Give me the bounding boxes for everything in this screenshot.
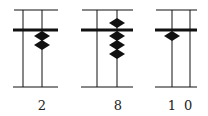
value-label: 1 0 [168,99,195,112]
bead [109,40,125,50]
bead [34,31,50,41]
bead [109,31,125,41]
value-label: 2 [38,99,46,112]
bead [109,18,125,28]
bead [109,49,125,59]
value-label: 8 [114,99,122,112]
bead [164,31,180,41]
bead [34,40,50,50]
